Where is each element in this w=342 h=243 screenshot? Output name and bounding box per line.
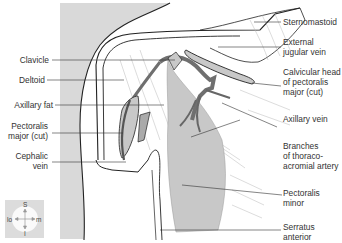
label-pectoralis-minor-line1: Pectoralis	[283, 188, 320, 198]
label-pectoralis-major-cut-line1: Pectoralis	[0, 121, 48, 131]
label-branches-line1: Branches	[283, 141, 318, 151]
label-sternomastoid: Sternomastoid	[283, 17, 337, 27]
compass-inferior: I	[24, 230, 26, 237]
label-clavicle: Clavicle	[4, 55, 49, 65]
label-deltoid: Deltoid	[4, 75, 45, 85]
label-clavicular-head-line1: Calvicular head	[283, 67, 341, 77]
label-branches-line3: acromial artery	[283, 161, 338, 171]
label-external-jugular-line1: External	[283, 37, 314, 47]
label-axillary-vein: Axillary vein	[283, 114, 328, 124]
compass-medial: m	[36, 216, 41, 223]
label-serratus-line1: Serratus	[283, 222, 315, 232]
label-serratus-line2: anterior	[283, 232, 311, 242]
label-cephalic-vein-line1: Cephalic	[0, 151, 48, 161]
compass-lateral: lo	[7, 216, 12, 223]
label-clavicular-head-line2: of pectoralis	[283, 77, 328, 87]
compass-superior: S	[23, 201, 27, 208]
label-external-jugular-line2: jugular vein	[283, 47, 326, 57]
label-clavicular-head-line3: major (cut)	[283, 87, 323, 97]
label-axillary-fat: Axillary fat	[0, 100, 53, 110]
label-pectoralis-minor-line2: minor	[283, 198, 304, 208]
orientation-compass: S I lo m	[5, 200, 44, 238]
label-pectoralis-major-cut-line2: major (cut)	[0, 131, 48, 141]
label-cephalic-vein-line2: vein	[0, 161, 48, 171]
label-branches-line2: of thoraco-	[283, 151, 323, 161]
